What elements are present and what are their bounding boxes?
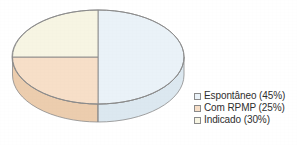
- legend-swatch-espontaneo: [194, 93, 201, 100]
- chart-legend: Espontâneo (45%) Com RPMP (25%) Indicado…: [194, 90, 297, 126]
- caption-strip: [4, 137, 194, 145]
- pie-chart-graphic: [0, 0, 200, 145]
- legend-item-com-rpmp[interactable]: Com RPMP (25%): [194, 102, 297, 114]
- legend-label-com-rpmp: Com RPMP (25%): [204, 102, 285, 114]
- legend-swatch-indicado: [194, 117, 201, 124]
- legend-swatch-com-rpmp: [194, 105, 201, 112]
- legend-label-indicado: Indicado (30%): [204, 114, 270, 126]
- legend-item-espontaneo[interactable]: Espontâneo (45%): [194, 90, 297, 102]
- pie-chart-figure: Espontâneo (45%) Com RPMP (25%) Indicado…: [0, 0, 297, 145]
- legend-label-espontaneo: Espontâneo (45%): [204, 90, 285, 102]
- pie-slice-indicado: [12, 10, 98, 57]
- legend-item-indicado[interactable]: Indicado (30%): [194, 114, 297, 126]
- pie-chart-svg: [0, 0, 200, 145]
